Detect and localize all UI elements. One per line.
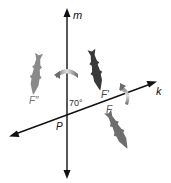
angle-label: 70° [69,98,83,108]
line-m-label: m [73,9,82,21]
line-k [9,81,157,137]
intersection-label: P [56,121,63,132]
f-original-label: F [106,104,113,115]
line-k-label: k [156,85,162,97]
arrowhead-left-icon [9,131,20,138]
f-double-prime-label: F″ [29,95,39,106]
reflection-arrow-m-icon [54,69,78,79]
reflection-diagram: m k P 70° F″ F′ F [0,0,171,183]
arrowhead-up-icon [64,8,71,17]
fish-f-original-icon [102,109,132,152]
f-prime-label: F′ [101,89,110,100]
line-m [64,8,71,179]
fish-f-double-prime-icon [27,52,45,95]
arrowhead-down-icon [64,170,71,179]
fish-f-prime-icon [86,48,106,92]
